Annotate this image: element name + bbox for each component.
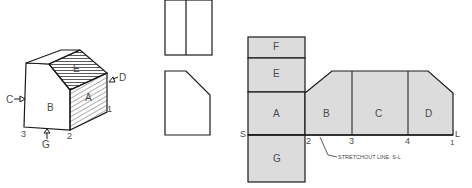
arrow-g-icon: [44, 129, 50, 139]
arrow-c-icon: [14, 96, 25, 102]
point-1: 1: [450, 138, 455, 147]
development-pattern: F E A G B C D S 2 3 4 L 1 STRETCHOUT LIN…: [240, 37, 460, 182]
front-view: [165, 71, 210, 135]
label-corner-2: 2: [67, 131, 72, 141]
orthographic-views: [165, 0, 212, 135]
label-b: B: [47, 102, 54, 113]
label-e: E: [73, 63, 80, 74]
net-label-e: E: [273, 68, 280, 79]
point-3: 3: [349, 136, 354, 146]
label-g: G: [42, 139, 50, 150]
point-s: S: [240, 129, 246, 139]
label-a: A: [85, 92, 92, 103]
point-l: L: [455, 129, 460, 139]
net-label-g: G: [273, 153, 281, 164]
point-4: 4: [405, 136, 410, 146]
net-label-b: B: [323, 108, 330, 119]
label-c: C: [6, 94, 13, 105]
net-label-a: A: [273, 108, 280, 119]
label-d: D: [119, 72, 126, 83]
point-2: 2: [306, 136, 311, 146]
stretchout-label: STRETCHOUT LINE: S-L: [338, 154, 401, 160]
net-label-c: C: [375, 108, 382, 119]
net-label-f: F: [273, 41, 279, 52]
net-label-d: D: [425, 108, 432, 119]
net-row-bcd: [305, 71, 453, 135]
arrow-d-icon: [109, 77, 118, 82]
pictorial-view: B A E C D G 1 2 3: [6, 50, 126, 150]
top-view: [165, 0, 212, 55]
label-corner-3: 3: [21, 129, 26, 139]
drawing-canvas: B A E C D G 1 2 3 F E A G B C D S 2: [0, 0, 472, 188]
label-corner-1: 1: [107, 104, 112, 114]
leader-line: [320, 137, 337, 157]
